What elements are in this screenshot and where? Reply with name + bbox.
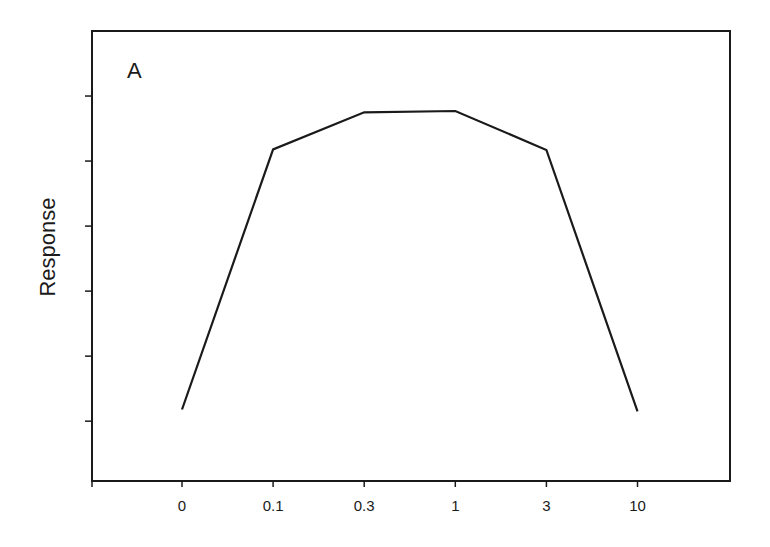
- y-axis-ticks: [85, 96, 92, 421]
- x-tick-label: 0.1: [263, 497, 284, 514]
- plot-frame: [92, 31, 730, 481]
- x-tick-label: 1: [451, 497, 459, 514]
- y-axis-label: Response: [35, 197, 60, 296]
- x-tick-label: 3: [542, 497, 550, 514]
- x-tick-label: 0: [178, 497, 186, 514]
- x-tick-label: 0.3: [354, 497, 375, 514]
- response-series-line: [182, 111, 638, 411]
- panel-label: A: [127, 58, 142, 83]
- x-axis-tick-labels: 00.10.31310: [178, 497, 646, 514]
- x-tick-label: 10: [629, 497, 646, 514]
- response-line-chart: 00.10.31310 A Response: [0, 0, 770, 547]
